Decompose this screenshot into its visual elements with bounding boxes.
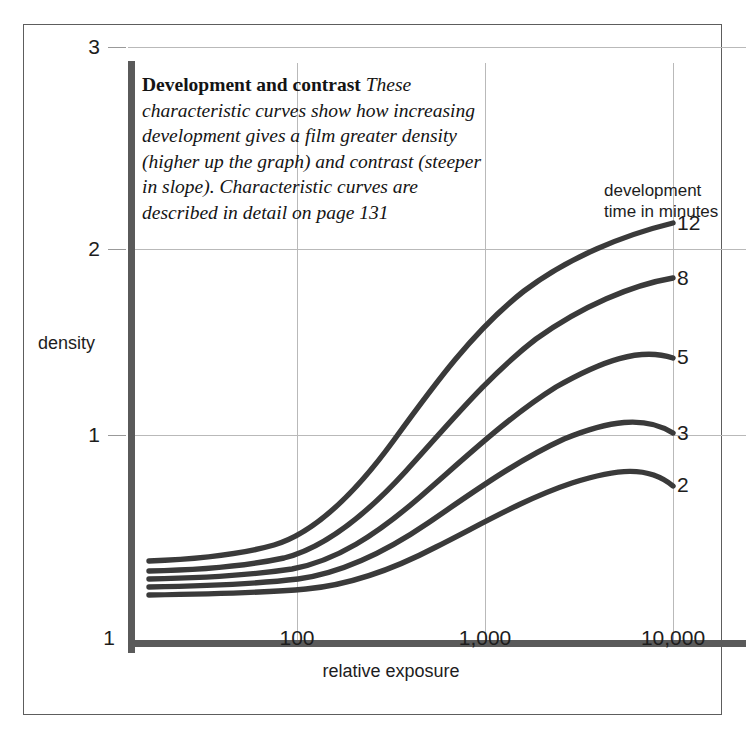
x-tick-label-100: 100 xyxy=(242,626,352,650)
x-axis-title: relative exposure xyxy=(291,661,491,682)
legend-title-line1: development xyxy=(604,180,750,201)
y-axis-title: density xyxy=(38,333,95,354)
curve-label-3: 3 xyxy=(677,421,689,445)
curve-label-5: 5 xyxy=(677,345,689,369)
curve-8 xyxy=(149,278,673,571)
figure-caption: Development and contrast These character… xyxy=(142,72,494,225)
curve-label-12: 12 xyxy=(677,211,700,235)
curve-12 xyxy=(149,223,673,561)
curve-label-2: 2 xyxy=(677,473,689,497)
x-tick-label-10000: 10,000 xyxy=(618,626,728,650)
caption-lead: Development and contrast xyxy=(142,74,361,95)
figure-frame: Development and contrast These character… xyxy=(23,24,722,715)
y-tick-dash-1 xyxy=(108,435,126,436)
x-tick-label-1000: 1,000 xyxy=(430,626,540,650)
y-tick-label-3: 3 xyxy=(60,35,100,59)
y-tick-dash-3 xyxy=(108,47,126,48)
x-tick-label-1: 1 xyxy=(54,626,164,650)
y-tick-label-2: 2 xyxy=(60,237,100,261)
curve-label-8: 8 xyxy=(677,266,689,290)
y-tick-label-1: 1 xyxy=(60,423,100,447)
y-tick-dash-2 xyxy=(108,249,126,250)
caption-body: These characteristic curves show how inc… xyxy=(142,74,481,223)
